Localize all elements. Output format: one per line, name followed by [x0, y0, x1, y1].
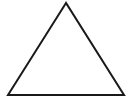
triangle-shape [8, 3, 124, 95]
triangle-diagram [0, 0, 132, 104]
